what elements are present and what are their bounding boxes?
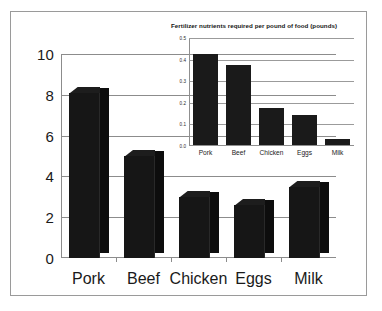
inset-x-axis-line <box>189 145 354 146</box>
main-bar-front-face <box>69 93 100 258</box>
main-y-tick-label: 2 <box>45 209 54 226</box>
main-bar-side-face <box>265 200 274 253</box>
inset-x-label-pork: Pork <box>199 149 213 156</box>
inset-bar-chart: Fertilizer nutrients required per pound … <box>166 22 362 167</box>
main-x-label-pork: Pork <box>72 270 105 288</box>
main-bar-front-face <box>124 156 155 258</box>
main-x-tick <box>171 257 172 262</box>
main-y-tick-label: 10 <box>37 46 54 63</box>
main-bar-edge <box>319 187 320 258</box>
main-x-label-beef: Beef <box>127 270 160 288</box>
main-y-tick-label: 4 <box>45 168 54 185</box>
main-y-tick-label: 8 <box>45 86 54 103</box>
inset-y-tick-label: 0.5 <box>180 36 186 41</box>
inset-x-label-milk: Milk <box>332 149 344 156</box>
inset-bar <box>259 108 284 145</box>
inset-chart-title: Fertilizer nutrients required per pound … <box>171 22 337 29</box>
main-bar-edge <box>99 93 100 258</box>
inset-bar <box>226 65 251 145</box>
main-x-tick <box>226 257 227 262</box>
main-bar <box>179 197 210 258</box>
main-bar <box>69 93 100 258</box>
inset-y-tick-label: 0.0 <box>180 144 186 149</box>
main-y-tick-label: 6 <box>45 127 54 144</box>
inset-bar <box>325 139 350 145</box>
inset-y-tick-label: 0.4 <box>180 57 186 62</box>
figure-frame: 1086420 PorkBeefChickenEggsMilk Fertiliz… <box>10 11 367 296</box>
main-x-tick <box>281 257 282 262</box>
main-bar-edge <box>209 197 210 258</box>
main-bar-side-face <box>320 182 329 253</box>
main-bar-front-face <box>289 187 320 258</box>
inset-plot-area: 0.50.40.30.20.10.0 <box>189 38 354 146</box>
main-y-axis-line <box>61 54 62 258</box>
main-bar-side-face <box>210 192 219 253</box>
main-bar <box>124 156 155 258</box>
inset-gridline <box>189 38 354 39</box>
inset-y-tick-label: 0.2 <box>180 100 186 105</box>
main-x-label-eggs: Eggs <box>235 270 271 288</box>
inset-y-tick-label: 0.3 <box>180 79 186 84</box>
inset-bar <box>292 115 317 145</box>
inset-x-label-chicken: Chicken <box>260 149 284 156</box>
main-x-tick <box>116 257 117 262</box>
main-x-label-milk: Milk <box>294 270 322 288</box>
main-bar <box>234 205 265 258</box>
main-bar-front-face <box>234 205 265 258</box>
inset-bar <box>193 54 218 145</box>
inset-x-label-eggs: Eggs <box>297 149 312 156</box>
main-y-tick-label: 0 <box>45 250 54 267</box>
main-bar-edge <box>264 205 265 258</box>
main-bar-side-face <box>155 151 164 253</box>
inset-y-axis-line <box>189 38 190 146</box>
main-bar-front-face <box>179 197 210 258</box>
main-x-label-chicken: Chicken <box>170 270 228 288</box>
main-bar-side-face <box>100 88 109 253</box>
main-bar-edge <box>154 156 155 258</box>
main-bar <box>289 187 320 258</box>
inset-x-label-beef: Beef <box>232 149 246 156</box>
inset-y-tick-label: 0.1 <box>180 122 186 127</box>
